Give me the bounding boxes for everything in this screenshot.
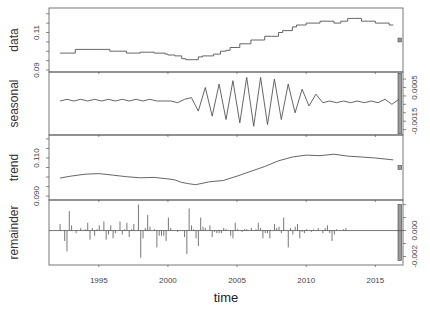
x-tick-label: 2015 [366, 276, 384, 285]
panel-label-seasonal: seasonal [7, 79, 21, 127]
stl-decomposition-chart: 0.090.11data0.0005-0.0015seasonal0.0900.… [0, 0, 430, 311]
panel-trend: 0.0900.110trend [7, 135, 403, 206]
x-tick-label: 2010 [297, 276, 315, 285]
panel-label-remainder: remainder [7, 205, 21, 259]
panel-frame [49, 135, 403, 200]
panel-frame [49, 72, 403, 135]
y-tick-label: 0.000 [410, 220, 419, 241]
series-line [60, 18, 393, 59]
series-line [60, 77, 399, 126]
y-tick-label: 0.0005 [410, 75, 419, 100]
panel-frame [49, 8, 403, 72]
x-tick-label: 2000 [159, 276, 177, 285]
range-bar [398, 73, 402, 133]
panel-frame [49, 200, 403, 265]
x-tick-label: 2005 [228, 276, 246, 285]
y-tick-label: 0.110 [32, 148, 41, 168]
x-axis: 19952000200520102015 [90, 276, 385, 285]
range-bar [398, 38, 402, 42]
x-tick-label: 1995 [90, 276, 108, 285]
range-bar [398, 166, 402, 170]
panel-remainder: 0.000-0.002remainder [7, 200, 419, 268]
panels: 0.090.11data0.0005-0.0015seasonal0.0900.… [7, 8, 419, 268]
y-tick-label: -0.002 [410, 245, 419, 268]
x-axis-label: time [214, 290, 239, 305]
y-tick-label: 0.09 [32, 62, 41, 78]
panel-seasonal: 0.0005-0.0015seasonal [7, 72, 419, 137]
panel-label-trend: trend [7, 154, 21, 181]
y-tick-label: 0.11 [32, 24, 41, 40]
panel-label-data: data [7, 28, 21, 52]
y-tick-label: -0.0015 [410, 107, 419, 135]
range-bar [398, 205, 402, 261]
panel-data: 0.090.11data [7, 8, 403, 78]
y-tick-label: 0.090 [32, 186, 41, 207]
series-line [60, 154, 393, 185]
